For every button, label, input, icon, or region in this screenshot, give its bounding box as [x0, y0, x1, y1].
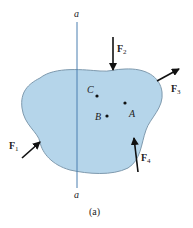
point-b-label: B	[95, 111, 101, 122]
point-a-dot	[123, 101, 126, 104]
point-c-label: C	[87, 84, 94, 95]
force-f2-label: F2	[117, 43, 127, 56]
force-f1-label: F1	[9, 140, 19, 153]
figure-caption: (a)	[89, 206, 100, 218]
point-a-label: A	[128, 108, 136, 119]
force-f3-label: F3	[171, 83, 181, 96]
force-f4-label: F4	[141, 152, 151, 165]
point-b-dot	[105, 114, 108, 117]
rigid-body-diagram: a a F2 F3 F1 F4 C A B (a)	[0, 0, 193, 228]
point-c-dot	[95, 94, 98, 97]
axis-top-label: a	[74, 8, 79, 19]
axis-bottom-label: a	[74, 189, 79, 200]
force-f3-arrow	[157, 69, 179, 81]
force-f1-arrow	[22, 142, 40, 158]
